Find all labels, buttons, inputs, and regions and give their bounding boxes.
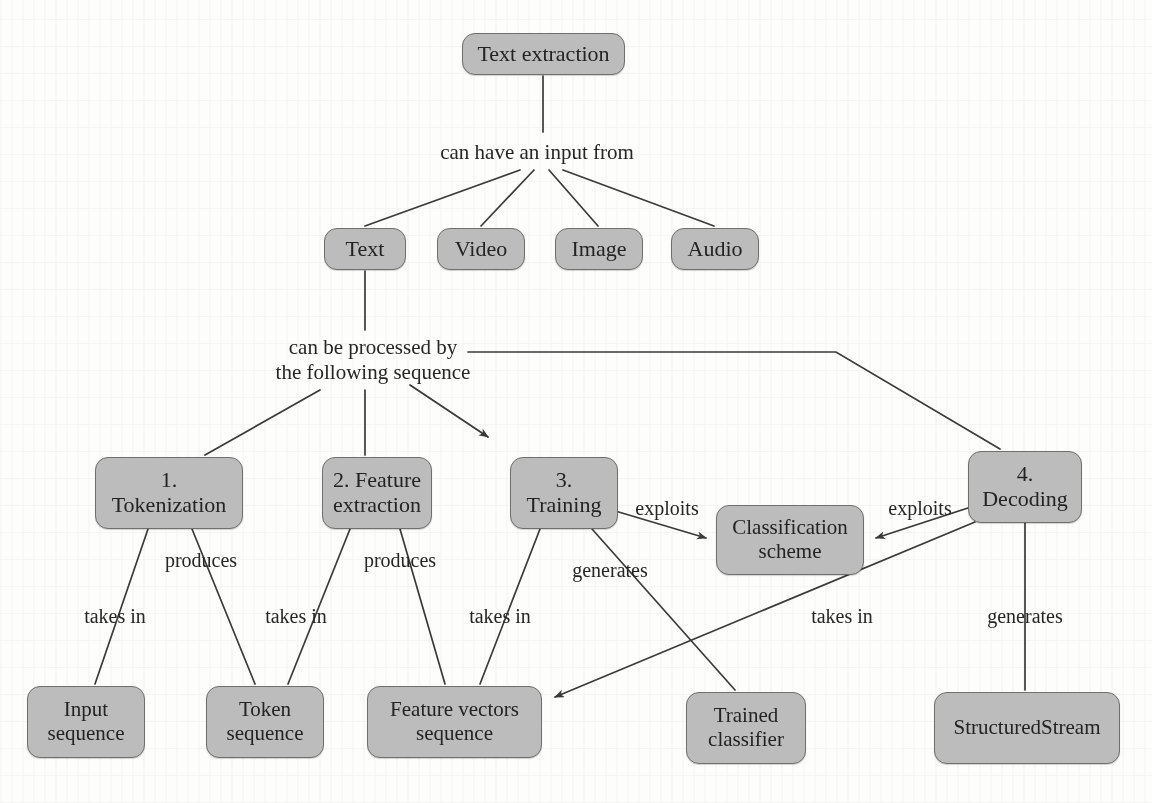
edge-label-exploits-decoding: exploits	[878, 496, 962, 520]
node-label: Text extraction	[477, 42, 609, 67]
edge-input-from-text	[365, 170, 520, 226]
edge-input-from-audio	[563, 170, 714, 226]
node-label: Token sequence	[227, 698, 304, 745]
node-input-sequence[interactable]: Input sequence	[27, 686, 145, 758]
node-tokenization[interactable]: 1. Tokenization	[95, 457, 243, 529]
edge-label-takes-in-training: takes in	[458, 604, 542, 628]
edge-label-exploits-training: exploits	[625, 496, 709, 520]
edge-sequence-to-decoding	[468, 352, 1000, 449]
node-token-sequence[interactable]: Token sequence	[206, 686, 324, 758]
node-label: Image	[572, 237, 627, 262]
edge-sequence-to-tokenization	[205, 390, 320, 455]
node-feature-extraction[interactable]: 2. Feature extraction	[322, 457, 432, 529]
node-label: Trained classifier	[708, 704, 784, 751]
node-label: Text	[346, 237, 385, 262]
node-label: Audio	[688, 237, 743, 262]
node-text-extraction[interactable]: Text extraction	[462, 33, 625, 75]
diagram-edges	[0, 0, 1152, 803]
node-label: StructuredStream	[954, 716, 1101, 740]
edge-label-produces-feature-extraction: produces	[350, 548, 450, 572]
edge-label-produces-tokenization: produces	[151, 548, 251, 572]
node-feature-vectors-sequence[interactable]: Feature vectors sequence	[367, 686, 542, 758]
edge-label-can-be-processed-by: can be processed by the following sequen…	[258, 335, 488, 385]
node-decoding[interactable]: 4. Decoding	[968, 451, 1082, 523]
node-text[interactable]: Text	[324, 228, 406, 270]
edge-input-from-image	[549, 170, 598, 226]
node-label: Classification scheme	[732, 516, 847, 563]
edge-training-generates-trained-classifier	[592, 529, 735, 690]
edge-input-from-video	[481, 170, 534, 226]
node-classification-scheme[interactable]: Classification scheme	[716, 505, 864, 575]
node-trained-classifier[interactable]: Trained classifier	[686, 692, 806, 764]
diagram-page: Text extraction Text Video Image Audio 1…	[0, 0, 1152, 803]
edge-label-generates-training: generates	[558, 558, 662, 582]
edge-label-takes-in-feature-extraction: takes in	[254, 604, 338, 628]
node-audio[interactable]: Audio	[671, 228, 759, 270]
node-structured-stream[interactable]: StructuredStream	[934, 692, 1120, 764]
node-label: 2. Feature extraction	[333, 468, 421, 517]
edge-label-takes-in-decoding: takes in	[800, 604, 884, 628]
node-label: 4. Decoding	[982, 462, 1068, 511]
edge-label-takes-in-tokenization: takes in	[73, 604, 157, 628]
node-training[interactable]: 3. Training	[510, 457, 618, 529]
edge-sequence-to-training	[410, 385, 488, 437]
node-label: Video	[455, 237, 507, 262]
node-image[interactable]: Image	[555, 228, 643, 270]
node-label: Input sequence	[48, 698, 125, 745]
node-video[interactable]: Video	[437, 228, 525, 270]
edge-label-generates-decoding: generates	[973, 604, 1077, 628]
node-label: Feature vectors sequence	[390, 698, 519, 745]
node-label: 3. Training	[527, 468, 602, 517]
edge-label-can-have-an-input-from: can have an input from	[422, 140, 652, 165]
node-label: 1. Tokenization	[112, 468, 227, 517]
